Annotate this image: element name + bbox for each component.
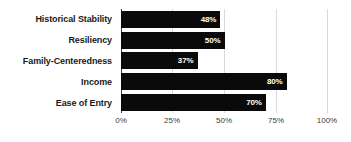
category-label: Historical Stability [0, 9, 117, 30]
bar-row: 50% [121, 30, 328, 51]
category-label: Income [0, 71, 117, 92]
category-label: Family-Centeredness [0, 51, 117, 72]
bar-value-label: 70% [246, 98, 262, 107]
bar-series: 48% 50% 37% 80% 70% [121, 9, 328, 113]
category-label: Resiliency [0, 30, 117, 51]
bar[interactable]: 70% [121, 94, 266, 111]
plot-area: 48% 50% 37% 80% 70% [121, 9, 328, 113]
bar-value-label: 50% [205, 36, 221, 45]
bar[interactable]: 50% [121, 32, 225, 49]
bar[interactable]: 48% [121, 11, 220, 28]
bar-value-label: 48% [201, 15, 217, 24]
bar-value-label: 37% [178, 56, 194, 65]
xtick-label: 25% [164, 116, 180, 125]
xtick-label: 75% [268, 116, 284, 125]
category-axis-labels: Historical Stability Resiliency Family-C… [0, 9, 117, 113]
bar[interactable]: 37% [121, 52, 198, 69]
category-label: Ease of Entry [0, 92, 117, 113]
bar-value-label: 80% [267, 77, 283, 86]
bar-row: 48% [121, 9, 328, 30]
xtick-label: 50% [216, 116, 232, 125]
xtick-label: 0% [115, 116, 127, 125]
bar-row: 80% [121, 71, 328, 92]
bar-chart: Historical Stability Resiliency Family-C… [0, 0, 351, 142]
bar-row: 70% [121, 92, 328, 113]
x-axis-tick-labels: 0% 25% 50% 75% 100% [121, 116, 328, 130]
bar[interactable]: 80% [121, 73, 287, 90]
xtick-label: 100% [317, 116, 337, 125]
bar-row: 37% [121, 51, 328, 72]
